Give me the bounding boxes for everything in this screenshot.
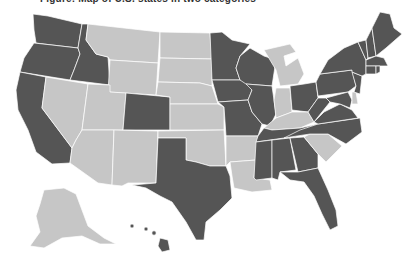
state-wa[interactable] (33, 14, 82, 48)
state-ms[interactable] (254, 140, 272, 180)
us-map (0, 0, 415, 269)
state-ks[interactable] (170, 104, 224, 130)
state-de[interactable] (352, 92, 358, 104)
state-sd[interactable] (158, 58, 212, 86)
state-me[interactable] (372, 12, 402, 56)
state-nd[interactable] (160, 32, 212, 59)
state-nm[interactable] (112, 130, 158, 186)
state-ak[interactable] (30, 188, 116, 248)
state-ri[interactable] (376, 66, 380, 74)
state-hi[interactable] (130, 224, 170, 252)
state-wy[interactable] (108, 60, 158, 95)
state-co[interactable] (123, 93, 170, 130)
state-ny[interactable] (320, 42, 366, 76)
state-fl[interactable] (280, 168, 338, 230)
state-ct[interactable] (366, 66, 376, 74)
